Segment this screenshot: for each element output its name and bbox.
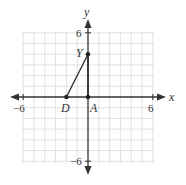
- x-tick-max-label: 6: [148, 102, 154, 114]
- y-tick-max-label: 6: [76, 27, 82, 39]
- y-axis-arrow-down: [85, 166, 92, 175]
- point-y: [86, 52, 90, 56]
- x-axis-arrow-left: [10, 94, 19, 101]
- point-d: [64, 95, 68, 99]
- x-tick-min-label: −6: [13, 102, 25, 114]
- y-axis-label: y: [83, 5, 90, 19]
- x-axis-label: x: [168, 90, 175, 104]
- point-a-label: A: [89, 101, 98, 115]
- point-y-label: Y: [76, 46, 84, 60]
- y-axis-arrow-up: [85, 19, 92, 28]
- coordinate-plane: x y −6 6 6 −6 Y D A: [0, 0, 186, 185]
- x-axis-arrow-right: [157, 94, 166, 101]
- point-d-label: D: [60, 101, 70, 115]
- point-a: [86, 95, 90, 99]
- y-tick-min-label: −6: [70, 155, 82, 167]
